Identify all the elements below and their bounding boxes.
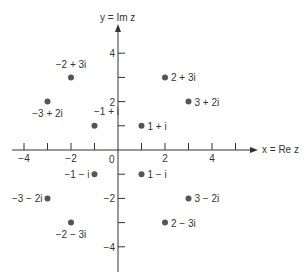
data-point [92, 171, 98, 177]
point-label: 3 + 2i [195, 97, 220, 108]
data-point [45, 195, 51, 201]
point-label: −3 − 2i [12, 193, 43, 204]
y-tick-label: −4 [104, 242, 116, 253]
data-point [92, 123, 98, 129]
x-axis-arrow-icon [250, 147, 258, 153]
data-point [68, 74, 74, 80]
point-label: 3 − 2i [195, 193, 220, 204]
point-label: 2 + 3i [171, 72, 196, 83]
x-tick-label: 2 [162, 153, 168, 164]
point-label: −3 + 2i [32, 108, 63, 119]
point-label: 1 − i [148, 169, 167, 180]
data-point [186, 195, 192, 201]
data-point [139, 123, 145, 129]
y-axis-label: y = Im z [100, 12, 135, 23]
data-point [186, 99, 192, 105]
point-label: 2 − 3i [171, 218, 196, 229]
data-point [45, 99, 51, 105]
point-label: −2 + 3i [56, 59, 87, 70]
point-label: −1 + i [94, 106, 119, 117]
x-tick-label: 4 [209, 153, 215, 164]
y-tick-label: 4 [109, 48, 115, 59]
point-label: −1 − i [64, 169, 89, 180]
point-label: −2 − 3i [56, 229, 87, 240]
data-point [162, 74, 168, 80]
data-point [162, 220, 168, 226]
y-axis-arrow-icon [115, 24, 121, 32]
point-label: 1 + i [148, 121, 167, 132]
complex-plane-diagram: x = Re z y = Im z 0 −4−22442−2−4 2 + 3i3… [0, 0, 306, 279]
data-point [139, 171, 145, 177]
data-point [68, 220, 74, 226]
x-tick-label: −4 [18, 153, 30, 164]
origin-label: 0 [109, 154, 115, 165]
y-tick-label: −2 [104, 193, 116, 204]
x-axis-label: x = Re z [262, 144, 299, 155]
x-tick-label: −2 [65, 153, 77, 164]
